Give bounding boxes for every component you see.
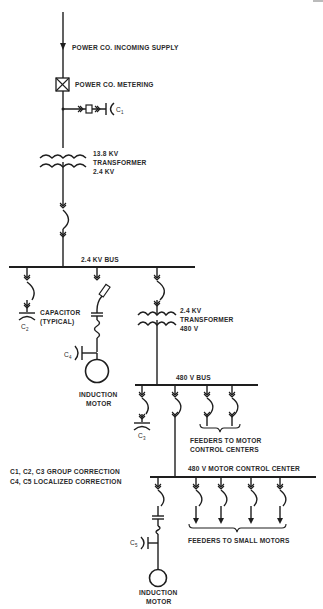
incoming-supply-label: POWER CO. INCOMING SUPPLY [72,44,179,51]
bus-2400v-label: 2.4 KV BUS [81,256,119,263]
capacitor-typical-label-1: CAPACITOR [40,309,80,316]
motor-2-branch [141,477,167,587]
main-breaker-icon [60,203,69,237]
bus-480v-label: 480 V BUS [176,374,211,381]
c2-label: C2 [21,323,29,332]
c3-capacitor-branch [134,385,150,430]
c5-label: C5 [130,539,138,548]
mcc-feeder [172,385,181,477]
brace-icon [200,424,240,432]
main-transformer-secondary-label: 2.4 KV [93,168,115,175]
feeders-small-motors [189,477,286,532]
motor-1-label-line2: MOTOR [86,400,111,407]
c1-label: C1 [116,106,124,115]
capacitor-typical-label-2: (TYPICAL) [40,318,74,326]
brace-icon [189,524,286,532]
feeders-to-mcc [200,385,240,432]
main-transformer-name-label: TRANSFORMER [93,159,147,166]
c3-label: C3 [138,432,146,441]
feeders-mcc-label-2: CONTROL CENTERS [190,446,259,453]
legend-line-1: C1, C2, C3 GROUP CORRECTION [10,468,120,476]
c2-capacitor-branch [19,267,35,320]
induction-motor-2-icon [150,570,167,587]
sub-transformer-name-label: TRANSFORMER [180,316,234,323]
c4-label: C4 [64,351,72,360]
metering-box-icon [56,78,69,91]
arrow-down-icon [193,518,199,524]
sub-transformer-branch [138,267,176,385]
motor-1-branch [75,267,110,383]
incoming-supply-line [60,12,66,78]
page-corner-mark [313,0,323,2]
arrow-down-icon [277,518,283,524]
induction-motor-1-icon [86,360,109,383]
motor-2-label-line1: INDUCTION [139,589,177,596]
arrow-down-icon [248,518,254,524]
sub-transformer-secondary-label: 480 V [180,325,199,332]
motor-1-label-line1: INDUCTION [79,391,117,398]
sub-transformer-primary-label: 2.4 KV [180,307,202,314]
motor-2-label-line2: MOTOR [146,598,171,605]
arrow-down-icon [60,43,66,50]
metering-label: POWER CO. METERING [75,81,154,88]
one-line-diagram: POWER CO. INCOMING SUPPLY POWER CO. METE… [0,0,323,609]
feeders-mcc-label-1: FEEDERS TO MOTOR [190,437,262,444]
legend-line-2: C4, C5 LOCALIZED CORRECTION [10,478,122,486]
mcc-label: 480 V MOTOR CONTROL CENTER [188,465,300,472]
arrow-down-icon [218,518,224,524]
c1-capacitor-branch [62,103,115,115]
main-transformer-primary-label: 13.8 KV [93,150,119,157]
feeders-small-label: FEEDERS TO SMALL MOTORS [188,537,290,544]
